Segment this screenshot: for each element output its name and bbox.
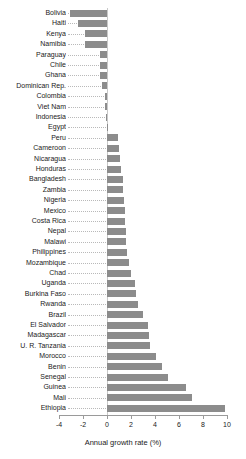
bar [107,394,192,401]
bar [107,363,162,370]
bar-row: Bolivia [0,8,246,18]
bar-category-label: Zambia [0,185,66,195]
bar-category-label: Mali [0,393,66,403]
leader-line [68,107,104,108]
bar [107,124,108,131]
bar-row: Philippines [0,247,246,257]
leader-line [68,377,106,378]
bar-row: Chad [0,268,246,278]
bar [107,270,131,277]
bar-row: Mexico [0,206,246,216]
bar [107,238,126,245]
bar-category-label: Indonesia [0,112,66,122]
bar-row: Kenya [0,29,246,39]
bar-row: Costa Rica [0,216,246,226]
leader-line [68,294,106,295]
bar-row: Benin [0,362,246,372]
leader-line [68,242,106,243]
leader-line [68,34,84,35]
leader-line [68,159,106,160]
x-axis-tick-label: -2 [73,421,93,428]
bar-row: Viet Nam [0,102,246,112]
x-axis-tick-label: -4 [49,421,69,428]
x-axis-title: Annual growth rate (%) [0,438,246,447]
bar [78,20,107,27]
leader-line [68,96,104,97]
leader-line [68,55,99,56]
leader-line [68,273,106,274]
bar-category-label: Peru [0,133,66,143]
bar-category-label: Egypt [0,122,66,132]
leader-line [68,65,99,66]
bar-category-label: Rwanda [0,299,66,309]
leader-line [68,221,106,222]
leader-line [68,23,77,24]
bar [107,322,148,329]
leader-line [68,346,106,347]
horizontal-bar-chart: BoliviaHaitiKenyaNamibiaParaguayChileGha… [0,0,246,459]
bar-category-label: Bangladesh [0,174,66,184]
bar-category-label: Guinea [0,382,66,392]
bar-category-label: Bolivia [0,8,66,18]
bar-row: Malawi [0,237,246,247]
bar [105,93,107,100]
leader-line [68,169,106,170]
bar [102,82,107,89]
x-axis-tick [203,415,204,419]
bar-category-label: Uganda [0,278,66,288]
bar-row: Peru [0,133,246,143]
bar [107,155,120,162]
bar-category-label: Honduras [0,164,66,174]
bar-category-label: U. R. Tanzania [0,341,66,351]
bar-category-label: Morocco [0,351,66,361]
bar-row: Rwanda [0,299,246,309]
bar [85,30,107,37]
bar [107,186,123,193]
bar [107,259,129,266]
bar-row: Uganda [0,278,246,288]
bar-row: Haiti [0,18,246,28]
bar-row: Nepal [0,226,246,236]
bar [107,301,138,308]
x-axis-tick-label: 2 [121,421,141,428]
bar-row: Burkina Faso [0,289,246,299]
bar [100,51,107,58]
bar [107,145,119,152]
bar-category-label: Mozambique [0,258,66,268]
leader-line [68,315,106,316]
bar [100,72,107,79]
x-axis-tick [155,415,156,419]
bar [107,311,143,318]
bar [105,103,107,110]
x-axis-tick-label: 8 [193,421,213,428]
leader-line [68,86,101,87]
bar-category-label: Madagascar [0,330,66,340]
bar-row: Honduras [0,164,246,174]
leader-line [68,252,106,253]
bar-row: Colombia [0,91,246,101]
bar-category-label: Dominican Rep. [0,81,66,91]
x-axis-tick [179,415,180,419]
bar [107,332,149,339]
bar [70,10,107,17]
leader-line [68,283,106,284]
leader-line [68,408,106,409]
leader-line [68,138,106,139]
bar [107,353,156,360]
bar-row: El Salvador [0,320,246,330]
leader-line [68,367,106,368]
leader-line [68,387,106,388]
bar-category-label: Nepal [0,226,66,236]
bar [107,290,136,297]
bar-row: Madagascar [0,330,246,340]
bar-row: Egypt [0,122,246,132]
bar-row: Zambia [0,185,246,195]
bar-row: Dominican Rep. [0,81,246,91]
leader-line [68,398,106,399]
bar-category-label: Chile [0,60,66,70]
bar-category-label: Brazil [0,310,66,320]
bar-row: Guinea [0,382,246,392]
bar-category-label: Viet Nam [0,102,66,112]
leader-line [68,325,106,326]
bar-row: Nicaragua [0,154,246,164]
